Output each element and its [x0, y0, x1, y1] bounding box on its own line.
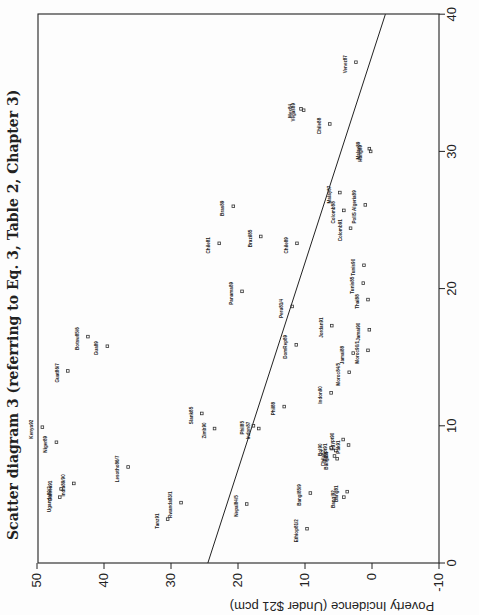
y-tick-label: 50	[29, 573, 44, 587]
point-marker	[87, 335, 90, 338]
point-marker	[259, 235, 262, 238]
point-marker	[328, 123, 331, 126]
point-label: Moroc90/1	[355, 341, 360, 364]
data-point: Rwanda83/1	[168, 491, 182, 518]
point-marker	[343, 496, 346, 499]
point-label: India89/90	[61, 474, 66, 497]
data-point: Chile88	[317, 117, 331, 134]
point-marker	[367, 349, 370, 352]
chart-title: Scatter diagram 3 (referring to Eq. 3, T…	[5, 90, 21, 540]
point-label: Kenya92	[29, 419, 34, 438]
point-marker	[343, 209, 346, 212]
point-label: Bangl86	[324, 451, 329, 469]
point-label: Jamai90	[356, 322, 361, 341]
data-point: PollS Algeria89	[352, 190, 366, 224]
point-marker	[245, 503, 248, 506]
data-point: Guat86/7	[55, 363, 69, 383]
data-point: Slank85	[189, 406, 203, 424]
point-label: Chile89	[284, 237, 289, 254]
point-marker	[295, 344, 298, 347]
data-point: Jordan91	[319, 317, 333, 338]
point-marker	[127, 466, 130, 469]
point-label: Phil88	[271, 401, 276, 415]
point-label: Indon90	[318, 386, 323, 404]
point-marker	[330, 392, 333, 395]
point-marker	[352, 352, 355, 355]
point-marker	[306, 527, 309, 530]
point-marker	[368, 328, 371, 331]
point-label: Indon87	[246, 421, 251, 439]
point-label: Jordan91	[319, 317, 324, 338]
point-marker	[309, 492, 312, 495]
point-label: Egypt90	[330, 432, 335, 450]
point-label: Chile88	[317, 117, 322, 134]
point-marker	[218, 242, 221, 245]
point-marker	[166, 518, 169, 521]
x-tick-label: 20	[444, 281, 459, 295]
data-point: Tunis85	[350, 276, 364, 293]
data-point: Zimb90	[202, 422, 216, 439]
point-marker	[342, 438, 345, 441]
point-marker	[302, 109, 305, 112]
data-point: Indon90	[318, 386, 332, 404]
point-marker	[55, 441, 58, 444]
y-tick-label: 0	[364, 573, 379, 580]
data-point: Nepal84/5	[234, 495, 248, 517]
point-marker	[347, 444, 350, 447]
point-label: Rwanda83/1	[168, 491, 173, 518]
point-marker	[346, 490, 349, 493]
data-point: Jamai90	[356, 322, 370, 341]
data-point: Uganda89/2	[47, 486, 61, 512]
data-point: Malay87	[327, 185, 341, 203]
data-points: Venez87Mex84Vegas89Chile88Malay89Hung89M…	[29, 55, 372, 543]
point-label: Pak91	[336, 440, 341, 454]
data-point: Colomb91	[338, 219, 352, 242]
point-label: Bras89	[220, 200, 225, 216]
data-point: Jamai88	[340, 346, 354, 365]
point-label: Malay87	[327, 185, 332, 203]
data-point: Chile89	[284, 237, 298, 254]
data-point: Bras89	[220, 200, 234, 216]
point-label: Colomb91	[338, 219, 343, 242]
data-point: Brazil85	[248, 229, 262, 247]
point-label: Vegas89	[291, 103, 296, 122]
point-label: Panama89	[229, 282, 234, 305]
point-label: Hung89	[358, 145, 363, 162]
point-label: Zimb90	[202, 422, 207, 439]
point-label: Guat86/7	[55, 363, 60, 383]
point-marker	[300, 108, 303, 111]
point-marker	[349, 227, 352, 230]
point-label: Tunis85	[350, 276, 355, 293]
y-tick-label: 20	[230, 573, 245, 587]
data-point: Pak91	[336, 440, 350, 454]
point-label: Ethiop81/2	[294, 519, 299, 543]
x-tick-label: 10	[444, 419, 459, 433]
y-tick-label: 40	[96, 573, 111, 587]
data-point: Kenya92	[29, 419, 43, 438]
point-marker	[333, 455, 336, 458]
x-tick-label: 0	[444, 559, 459, 566]
point-marker	[257, 427, 260, 430]
regression-line	[208, 14, 386, 563]
point-label: Thai88	[355, 294, 360, 309]
point-marker	[41, 426, 44, 429]
point-marker	[291, 305, 294, 308]
point-label: Tunis90	[351, 258, 356, 275]
point-label: Phil85	[240, 421, 245, 435]
data-point: Panama89	[229, 282, 243, 305]
data-point: Tunis90	[351, 258, 365, 275]
point-label: Lesotho86/7	[115, 455, 120, 482]
point-label: Bang81	[334, 485, 339, 502]
point-marker	[368, 147, 371, 150]
point-label: Brazil85	[248, 229, 253, 247]
y-tick-label: -10	[431, 573, 446, 592]
data-point: Tanz91	[155, 513, 169, 529]
x-tick-label: 40	[444, 7, 459, 21]
point-label: PollS Algeria89	[352, 190, 357, 224]
point-marker	[73, 482, 76, 485]
point-label: Tanz91	[155, 513, 160, 529]
data-point: Gua89	[94, 341, 108, 355]
data-point: Chile81	[206, 237, 220, 254]
data-point: Venez87	[343, 55, 357, 74]
point-marker	[355, 61, 358, 64]
